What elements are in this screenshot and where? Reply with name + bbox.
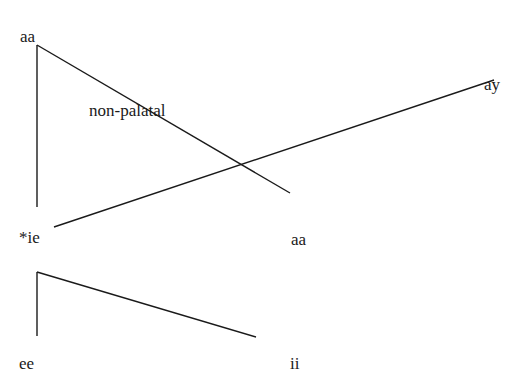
ee-diagonal-line bbox=[37, 272, 256, 337]
diagram-lines bbox=[0, 0, 526, 391]
label-non-palatal: non-palatal bbox=[89, 102, 165, 119]
label-star-ie: *ie bbox=[19, 229, 40, 246]
label-ay: ay bbox=[484, 76, 500, 93]
label-mid-aa: aa bbox=[291, 231, 306, 248]
label-ee: ee bbox=[19, 355, 34, 372]
label-top-aa: aa bbox=[20, 28, 35, 45]
diagram-canvas: aa ay non-palatal *ie aa ee ii bbox=[0, 0, 526, 391]
label-ii: ii bbox=[290, 355, 299, 372]
